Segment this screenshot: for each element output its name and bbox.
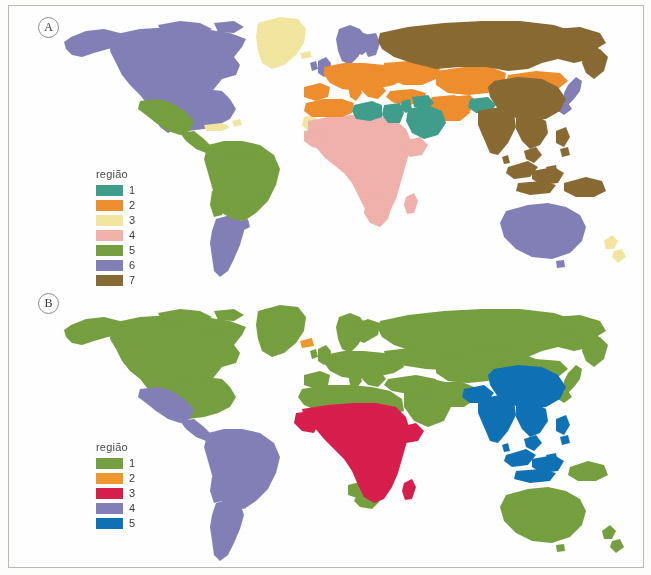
legend-b-swatch-5 bbox=[96, 518, 123, 529]
figure-page: A bbox=[0, 0, 651, 575]
region-4-areas-a bbox=[304, 115, 428, 227]
legend-b: região 1 2 3 4 5 bbox=[96, 441, 135, 531]
panel-b: B bbox=[8, 289, 644, 568]
legend-a-swatch-4 bbox=[96, 230, 123, 241]
legend-b-swatch-1 bbox=[96, 458, 123, 469]
legend-a-label-3: 3 bbox=[129, 215, 135, 226]
legend-a-swatch-2 bbox=[96, 200, 123, 211]
region-2-areas-b bbox=[300, 338, 314, 348]
region-5-areas-b bbox=[462, 365, 570, 483]
legend-a-row-5: 5 bbox=[96, 243, 135, 257]
panel-a: A bbox=[8, 5, 644, 289]
legend-a-label-2: 2 bbox=[129, 200, 135, 211]
legend-b-label-4: 4 bbox=[129, 503, 135, 514]
legend-b-row-2: 2 bbox=[96, 471, 135, 485]
region-5-extra-a bbox=[218, 151, 276, 211]
legend-a-swatch-7 bbox=[96, 275, 123, 286]
legend-a-label-1: 1 bbox=[129, 185, 135, 196]
legend-a-row-7: 7 bbox=[96, 273, 135, 287]
legend-a-row-3: 3 bbox=[96, 213, 135, 227]
legend-b-swatch-3 bbox=[96, 488, 123, 499]
legend-b-row-1: 1 bbox=[96, 456, 135, 470]
legend-b-swatch-2 bbox=[96, 473, 123, 484]
legend-a: região 1 2 3 4 5 6 bbox=[96, 168, 135, 288]
legend-b-label-5: 5 bbox=[129, 518, 135, 529]
legend-a-row-4: 4 bbox=[96, 228, 135, 242]
legend-a-label-5: 5 bbox=[129, 245, 135, 256]
legend-b-row-3: 3 bbox=[96, 486, 135, 500]
legend-a-label-6: 6 bbox=[129, 260, 135, 271]
legend-b-row-4: 4 bbox=[96, 501, 135, 515]
legend-b-title: região bbox=[96, 441, 135, 453]
legend-a-swatch-3 bbox=[96, 215, 123, 226]
legend-a-label-7: 7 bbox=[129, 275, 135, 286]
legend-a-swatch-1 bbox=[96, 185, 123, 196]
legend-a-row-6: 6 bbox=[96, 258, 135, 272]
legend-a-swatch-6 bbox=[96, 260, 123, 271]
legend-a-swatch-5 bbox=[96, 245, 123, 256]
legend-b-label-3: 3 bbox=[129, 488, 135, 499]
legend-a-row-2: 2 bbox=[96, 198, 135, 212]
legend-b-swatch-4 bbox=[96, 503, 123, 514]
legend-a-label-4: 4 bbox=[129, 230, 135, 241]
legend-b-label-2: 2 bbox=[129, 473, 135, 484]
legend-b-row-5: 5 bbox=[96, 516, 135, 530]
legend-a-title: região bbox=[96, 168, 135, 180]
legend-b-label-1: 1 bbox=[129, 458, 135, 469]
legend-a-row-1: 1 bbox=[96, 183, 135, 197]
